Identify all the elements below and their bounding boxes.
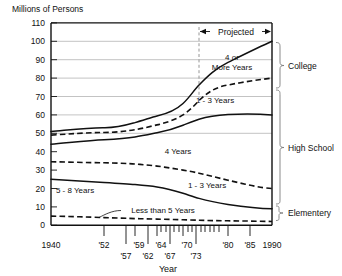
series-elem-less-5 bbox=[51, 216, 272, 221]
x-tick-59: '59 bbox=[133, 240, 144, 250]
x-tick-80: '80 bbox=[222, 240, 233, 250]
y-tick-labels: 110 100 90 80 70 60 50 40 30 20 10 0 bbox=[31, 18, 45, 230]
y-tick-90: 90 bbox=[36, 55, 46, 65]
series-college-1-3 bbox=[51, 78, 272, 135]
series-hs-1-3 bbox=[51, 162, 272, 189]
projected-label: Projected bbox=[218, 27, 254, 37]
education-attainment-line-chart: Millions of Persons 110 100 90 80 bbox=[0, 0, 342, 276]
y-tick-110: 110 bbox=[31, 18, 45, 28]
series-labels: 4 or More Years 1 - 3 Years 4 Years 1 - … bbox=[56, 53, 252, 218]
label-elem-less-5: Less than 5 Years bbox=[131, 206, 195, 215]
y-axis-title: Millions of Persons bbox=[12, 4, 83, 14]
chart-container: Millions of Persons 110 100 90 80 bbox=[0, 0, 342, 276]
y-tick-40: 40 bbox=[36, 147, 46, 157]
bracket-label-high-school: High School bbox=[288, 143, 334, 153]
y-tick-marks bbox=[51, 23, 57, 225]
x-tick-67: '67 bbox=[164, 251, 175, 261]
bracket-label-elementary: Elementery bbox=[288, 208, 332, 218]
x-axis-title: Year bbox=[159, 264, 177, 274]
y-tick-50: 50 bbox=[36, 128, 46, 138]
label-4-or-more-line1: 4 or bbox=[225, 53, 239, 62]
projected-arrow-left bbox=[200, 29, 206, 34]
x-tick-70: '70 bbox=[181, 240, 192, 250]
y-tick-10: 10 bbox=[36, 202, 46, 212]
x-tick-labels: 1940 '52 '59 '64 '70 '80 '85 1990 bbox=[42, 240, 282, 250]
x-tick-52: '52 bbox=[98, 240, 109, 250]
label-college-1-3: 1 - 3 Years bbox=[196, 96, 234, 105]
bracket-label-college: College bbox=[288, 61, 317, 71]
x-tick-1990: 1990 bbox=[263, 240, 282, 250]
x-tick-62: '62 bbox=[142, 251, 153, 261]
x-tick-64: '64 bbox=[155, 240, 166, 250]
label-4-or-more-line2: More Years bbox=[212, 63, 252, 72]
y-tick-60: 60 bbox=[36, 110, 46, 120]
y-tick-30: 30 bbox=[36, 165, 46, 175]
projected-arrow-right bbox=[265, 29, 271, 34]
y-tick-0: 0 bbox=[40, 220, 45, 230]
y-tick-70: 70 bbox=[36, 92, 46, 102]
x-tick-73: '73 bbox=[190, 251, 201, 261]
x-tick-1940: 1940 bbox=[42, 240, 61, 250]
y-tick-100: 100 bbox=[31, 36, 45, 46]
y-tick-80: 80 bbox=[36, 73, 46, 83]
x-tick-labels-secondary: '57 '62 '67 '73 bbox=[120, 251, 201, 261]
group-brackets: College High School Elementery bbox=[276, 43, 334, 221]
x-tick-57: '57 bbox=[120, 251, 131, 261]
y-tick-20: 20 bbox=[36, 184, 46, 194]
x-tick-85: '85 bbox=[244, 240, 255, 250]
label-hs-1-3: 1 - 3 Years bbox=[188, 181, 226, 190]
label-elem-5-8: 5 - 8 Years bbox=[56, 186, 94, 195]
label-hs-4-years: 4 Years bbox=[165, 147, 192, 156]
